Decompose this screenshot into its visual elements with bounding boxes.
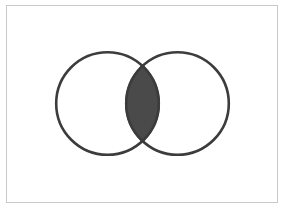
venn-diagram — [0, 0, 281, 209]
